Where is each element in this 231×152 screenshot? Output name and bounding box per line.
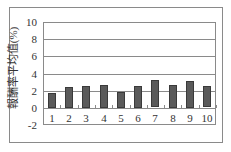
x-tick-label: 4 [96,113,112,124]
bar-7 [151,80,159,107]
x-tick-label: 7 [147,113,163,124]
y-tick-label: 6 [15,51,37,62]
x-tick-label: 1 [44,113,60,124]
x-tick-mark [147,105,148,108]
gridline [43,74,216,75]
bar-1 [48,93,56,108]
x-tick-mark [78,105,79,108]
bar-6 [134,86,142,108]
bar-3 [82,86,90,108]
bar-10 [203,86,211,107]
x-tick-label: 10 [199,113,215,124]
x-tick-mark [60,105,61,108]
y-tick-label: 8 [15,34,37,45]
gridline [43,108,216,109]
x-tick-label: 2 [61,113,77,124]
x-tick-label: 6 [130,113,146,124]
x-tick-label: 5 [113,113,129,124]
gridline [43,39,216,40]
x-tick-mark [112,105,113,108]
y-tick-label: 10 [15,17,37,28]
x-tick-mark [216,105,217,108]
y-tick-label: 0 [15,103,37,114]
x-tick-mark [199,105,200,108]
y-tick-label: 2 [15,86,37,97]
x-tick-mark [130,105,131,108]
bar-5 [117,92,125,108]
x-tick-label: 8 [165,113,181,124]
bar-4 [100,85,108,108]
x-tick-mark [181,105,182,108]
x-tick-label: 3 [78,113,94,124]
bar-2 [65,87,73,108]
x-tick-mark [95,105,96,108]
x-tick-label: 9 [182,113,198,124]
y-tick-label: 4 [15,69,37,80]
x-tick-mark [164,105,165,108]
y-tick-label: -2 [15,120,37,131]
bar-9 [186,81,194,108]
bar-8 [169,85,177,108]
gridline [43,56,216,57]
